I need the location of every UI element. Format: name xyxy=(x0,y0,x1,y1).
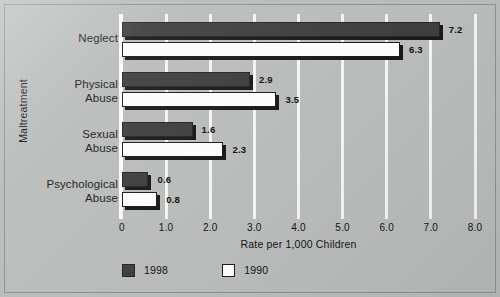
bar-body xyxy=(122,92,276,107)
x-tick-label-6.0: 6.0 xyxy=(379,222,394,233)
category-label-neglect: Neglect xyxy=(6,32,118,46)
bar-value-label-neglect-1998: 7.2 xyxy=(449,22,463,37)
x-tick-label-7.0: 7.0 xyxy=(424,222,439,233)
bar-value-label-psychological-abuse-1990: 0.8 xyxy=(166,192,180,207)
bar-sexual-abuse-1990 xyxy=(122,142,223,157)
legend-item-1998: 1998 xyxy=(122,264,168,277)
bar-body xyxy=(122,122,193,137)
bar-value-label-psychological-abuse-1998: 0.6 xyxy=(157,172,171,187)
x-tick-label-5.0: 5.0 xyxy=(335,222,350,233)
bar-neglect-1998 xyxy=(122,22,440,37)
bar-physical-abuse-1990 xyxy=(122,92,276,107)
bar-body xyxy=(122,22,440,37)
bar-psychological-abuse-1998 xyxy=(122,172,148,187)
bar-body xyxy=(122,142,223,157)
bar-body xyxy=(122,42,400,57)
x-tick-label-4.0: 4.0 xyxy=(291,222,306,233)
x-axis-tick-labels: 01.02.03.04.05.06.07.08.0 xyxy=(122,222,475,238)
bar-psychological-abuse-1990 xyxy=(122,192,157,207)
bar-value-label-physical-abuse-1998: 2.9 xyxy=(259,72,273,87)
bar-value-label-physical-abuse-1990: 3.5 xyxy=(285,92,299,107)
gridline-7.0 xyxy=(429,14,432,219)
gridline-8.0 xyxy=(474,14,477,219)
bar-body xyxy=(122,72,250,87)
bar-body xyxy=(122,172,148,187)
x-axis-title: Rate per 1,000 Children xyxy=(122,238,475,250)
category-label-line: Neglect xyxy=(6,32,118,46)
chart-legend: 1998 1990 xyxy=(122,262,322,278)
bar-sexual-abuse-1998 xyxy=(122,122,193,137)
bar-value-label-neglect-1990: 6.3 xyxy=(409,42,423,57)
x-tick-label-2.0: 2.0 xyxy=(203,222,218,233)
bar-value-label-sexual-abuse-1990: 2.3 xyxy=(232,142,246,157)
legend-label-1990: 1990 xyxy=(244,264,268,276)
x-tick-label-0: 0 xyxy=(119,222,125,233)
bar-body xyxy=(122,192,157,207)
x-tick-label-8.0: 8.0 xyxy=(468,222,483,233)
category-label-line: Abuse xyxy=(6,192,118,206)
bar-neglect-1990 xyxy=(122,42,400,57)
plot-area: 7.26.32.93.51.62.30.60.8 xyxy=(122,14,475,219)
legend-swatch-icon-1990 xyxy=(222,264,235,277)
legend-label-1998: 1998 xyxy=(144,264,168,276)
bar-chart-figure: 7.26.32.93.51.62.30.60.8 Neglect Physica… xyxy=(0,0,500,297)
legend-swatch-icon-1998 xyxy=(122,264,135,277)
x-tick-label-1.0: 1.0 xyxy=(159,222,174,233)
x-tick-label-3.0: 3.0 xyxy=(247,222,262,233)
category-label-line: Psychological xyxy=(6,178,118,192)
bar-physical-abuse-1998 xyxy=(122,72,250,87)
bar-value-label-sexual-abuse-1998: 1.6 xyxy=(202,122,216,137)
legend-item-1990: 1990 xyxy=(222,264,268,277)
y-axis-title: Maltreatment xyxy=(17,51,29,171)
category-label-psychological-abuse: Psychological Abuse xyxy=(6,178,118,205)
